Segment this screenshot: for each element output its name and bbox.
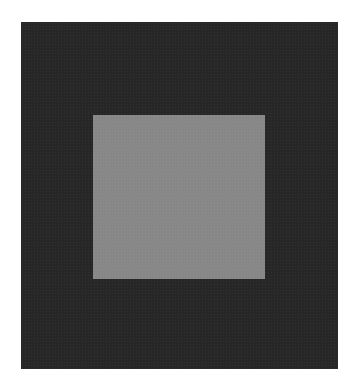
inner-gray-square xyxy=(93,115,265,279)
image-canvas xyxy=(0,0,352,384)
outer-dark-square xyxy=(21,22,338,369)
